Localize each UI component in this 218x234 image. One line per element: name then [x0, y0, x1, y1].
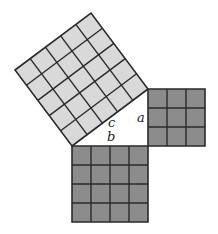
square-a: [148, 89, 205, 146]
square-outline: [148, 89, 205, 146]
square-b: [72, 146, 148, 222]
label-a: a: [137, 110, 145, 125]
pythagorean-diagram: c a b: [0, 0, 218, 234]
label-c: c: [108, 115, 116, 130]
label-b: b: [107, 129, 115, 144]
